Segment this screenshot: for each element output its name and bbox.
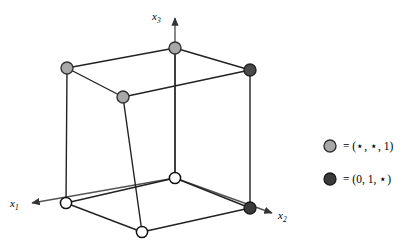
edge-top-left-front	[67, 68, 123, 97]
edge-top-right-back	[175, 48, 250, 70]
legend-item-dark[interactable]: = (0, 1, ⋆)	[324, 173, 391, 186]
figure-container: x3 x1 x2 = (⋆, ⋆, 1) = (0, 1, ⋆)	[0, 0, 403, 251]
vertex-node[interactable]	[169, 42, 181, 54]
edge-bottom-front-right	[142, 208, 250, 232]
legend-group: = (⋆, ⋆, 1) = (0, 1, ⋆)	[324, 140, 393, 186]
vertex-node[interactable]	[117, 91, 129, 103]
legend-item-gray[interactable]: = (⋆, ⋆, 1)	[324, 140, 393, 153]
edge-vertical-left	[66, 68, 67, 203]
vertex-node[interactable]	[60, 197, 71, 208]
axis-label-x1: x1	[9, 197, 19, 212]
edge-bottom-left-front	[66, 203, 142, 232]
edge-vertical-front	[123, 97, 142, 232]
legend-marker-gray-icon	[324, 140, 336, 152]
axis-labels-group: x3 x1 x2	[9, 10, 287, 224]
cube-diagram: x3 x1 x2 = (⋆, ⋆, 1) = (0, 1, ⋆)	[0, 0, 403, 251]
vertex-node[interactable]	[244, 202, 256, 214]
axis-label-x2: x2	[277, 209, 287, 224]
cube-edges-group	[66, 48, 250, 232]
cube-vertices-group	[60, 42, 256, 238]
legend-marker-dark-icon	[324, 173, 336, 185]
edge-bottom-right-back	[175, 178, 250, 208]
axis-label-x3: x3	[151, 10, 161, 25]
legend-label-dark: = (0, 1, ⋆)	[343, 173, 391, 186]
edge-top-front-right	[123, 70, 250, 97]
edge-bottom-back-left	[66, 178, 175, 203]
vertex-node[interactable]	[169, 172, 180, 183]
vertex-node[interactable]	[136, 226, 147, 237]
edge-top-back-left	[67, 48, 175, 68]
axis-x1-line	[32, 178, 175, 203]
legend-label-gray: = (⋆, ⋆, 1)	[343, 140, 393, 153]
vertex-node[interactable]	[244, 64, 256, 76]
vertex-node[interactable]	[61, 62, 73, 74]
